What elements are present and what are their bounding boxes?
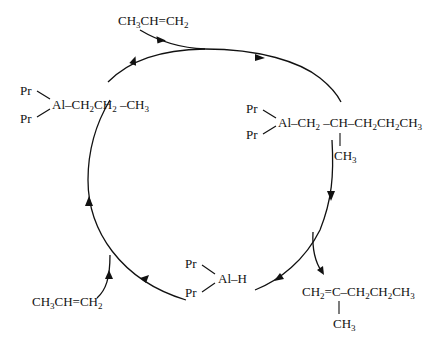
arrow-icon-right-down (327, 191, 335, 201)
left-complex: Pr Pr Al–CH2CH2 –CH3 (20, 83, 149, 126)
cycle-arc-top-right (205, 49, 341, 102)
arrow-icon-product (317, 266, 324, 275)
cycle-arc-left (88, 100, 186, 300)
right-branch-methyl: CH3 (334, 148, 357, 165)
right-chain-label: Al–CH2 –CH–CH2CH2CH3 (278, 115, 423, 132)
propene-feed-top (140, 30, 205, 49)
pr-ligand-bottom: Pr (246, 127, 258, 142)
left-chain-label: Al–CH2CH2 –CH3 (52, 97, 149, 114)
al-pr-bond (263, 126, 276, 134)
bottom-propene-label: CH3CH=CH2 (32, 294, 103, 311)
product: CH2=C–CH2CH2CH3 CH3 (302, 284, 415, 333)
pr-ligand-top: Pr (246, 101, 258, 116)
pr-ligand-top: Pr (185, 256, 197, 271)
al-pr-bond (263, 110, 276, 118)
al-pr-bond (37, 91, 50, 99)
al-pr-bond (202, 265, 215, 274)
arrow-icon-left-up (85, 196, 93, 206)
al-h-label: Al–H (218, 271, 247, 286)
pr-ligand-bottom: Pr (185, 285, 197, 300)
top-propene-label: CH3CH=CH2 (118, 13, 189, 30)
al-pr-bond (202, 283, 215, 292)
pr-ligand-top: Pr (20, 83, 32, 98)
al-pr-bond (37, 109, 50, 117)
product-branch-methyl: CH3 (333, 316, 356, 333)
arrow-icon-bottom-feed (105, 270, 113, 279)
product-release (313, 232, 322, 272)
hydride-complex: Pr Pr Al–H (185, 256, 247, 300)
catalytic-cycle-diagram: CH3CH=CH2 Pr Pr Al–CH2CH2 –CH3 Pr Pr Al–… (0, 0, 443, 350)
cycle-arc-top-left (108, 49, 205, 82)
arrow-icon-top-feed (156, 36, 167, 44)
right-complex: Pr Pr Al–CH2 –CH–CH2CH2CH3 CH3 (246, 101, 423, 165)
pr-ligand-bottom: Pr (20, 111, 32, 126)
product-label: CH2=C–CH2CH2CH3 (302, 284, 415, 301)
